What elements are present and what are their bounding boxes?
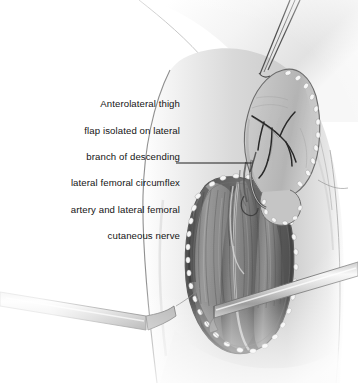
caption-line-5: artery and lateral femoral — [18, 203, 180, 216]
caption-line-4: lateral femoral circumflex — [18, 176, 180, 189]
figure-root: Anterolateral thigh flap isolated on lat… — [0, 0, 358, 383]
caption-line-6: cutaneous nerve — [18, 229, 180, 242]
caption-line-3: branch of descending — [18, 150, 180, 163]
caption-line-1: Anterolateral thigh — [18, 97, 180, 110]
caption-block: Anterolateral thigh flap isolated on lat… — [18, 84, 180, 256]
caption-line-2: flap isolated on lateral — [18, 124, 180, 137]
